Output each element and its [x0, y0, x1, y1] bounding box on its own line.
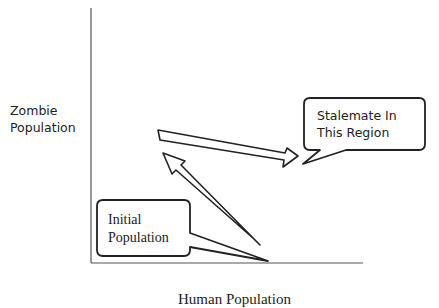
initial-callout-text: Initial Population: [108, 211, 169, 247]
stalemate-line2: This Region: [317, 124, 397, 141]
stalemate-callout-text: Stalemate In This Region: [317, 107, 397, 141]
stalemate-line1: Stalemate In: [317, 107, 397, 124]
y-axis-label-line1: Zombie: [10, 102, 76, 119]
y-axis-label: Zombie Population: [10, 102, 76, 136]
x-axis-label: Human Population: [178, 290, 291, 308]
y-axis-label-line2: Population: [10, 119, 76, 136]
initial-line2: Population: [108, 229, 169, 247]
initial-line1: Initial: [108, 211, 169, 229]
